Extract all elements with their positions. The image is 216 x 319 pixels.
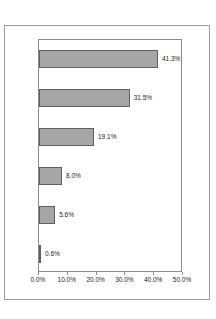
x-tick-mark: [38, 272, 39, 275]
bar: [39, 206, 55, 224]
x-axis: 0.0%10.0%20.0%30.0%40.0%50.0%: [38, 272, 182, 296]
x-tick-mark: [67, 272, 68, 275]
bars-layer: 41.3%31.5%19.1%8.0%5.6%0.6%: [39, 40, 181, 271]
x-tick-label: 50.0%: [173, 277, 191, 284]
bar: [39, 245, 41, 263]
bar-value-label: 31.5%: [134, 95, 152, 102]
bar-chart-figure: 41.3%31.5%19.1%8.0%5.6%0.6% 0.0%10.0%20.…: [0, 0, 216, 319]
bar-value-label: 0.6%: [45, 250, 60, 257]
bar: [39, 89, 130, 107]
x-tick-label: 40.0%: [144, 277, 162, 284]
x-tick-label: 10.0%: [58, 277, 76, 284]
x-tick-mark: [153, 272, 154, 275]
bar-value-label: 5.6%: [59, 212, 74, 219]
x-tick-mark: [182, 272, 183, 275]
x-tick-label: 20.0%: [86, 277, 104, 284]
bar-value-label: 41.3%: [162, 56, 180, 63]
bar: [39, 167, 62, 185]
bar-value-label: 19.1%: [98, 134, 116, 141]
x-tick-mark: [124, 272, 125, 275]
x-tick-label: 0.0%: [31, 277, 46, 284]
bar: [39, 50, 158, 68]
plot-area: 41.3%31.5%19.1%8.0%5.6%0.6%: [38, 39, 182, 272]
x-tick-mark: [96, 272, 97, 275]
x-tick-label: 30.0%: [115, 277, 133, 284]
bar: [39, 128, 94, 146]
bar-value-label: 8.0%: [66, 173, 81, 180]
